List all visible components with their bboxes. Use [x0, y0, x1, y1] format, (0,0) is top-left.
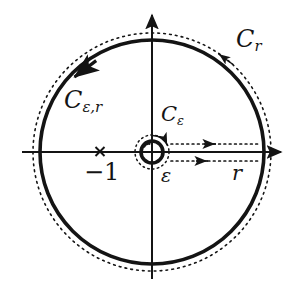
- label-epsilon-radius: ε: [161, 166, 171, 185]
- complex-contour-figure: Cr Cε,r Cε ε r −1: [0, 0, 301, 296]
- label-pole-minus-one: −1: [84, 160, 119, 184]
- label-contour-C-eps-r: Cε,r: [64, 88, 102, 115]
- label-contour-Cr: Cr: [236, 27, 262, 54]
- inner-contour-hook: [143, 143, 150, 147]
- label-contour-C-eps: Cε: [161, 104, 184, 127]
- label-r-radius: r: [232, 163, 242, 184]
